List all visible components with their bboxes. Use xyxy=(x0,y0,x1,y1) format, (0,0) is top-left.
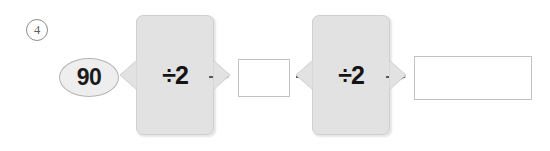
machine-1-operation-label: ÷2 xyxy=(136,15,214,135)
input-value-text: 90 xyxy=(77,66,102,89)
machine-2-outlet-wedge xyxy=(389,60,406,90)
machine-1-inlet-wedge xyxy=(120,60,137,90)
machine-1-outlet-wedge xyxy=(213,60,230,90)
function-machine-flow: 90 ÷2 xyxy=(0,0,550,151)
machine-2-inlet-wedge xyxy=(296,60,313,90)
answer-box-1[interactable] xyxy=(238,59,290,97)
input-value-oval: 90 xyxy=(59,58,119,97)
machine-2-operation-label: ÷2 xyxy=(312,15,390,135)
function-machine-1: ÷2 xyxy=(136,15,214,135)
function-machine-2: ÷2 xyxy=(312,15,390,135)
answer-box-2[interactable] xyxy=(414,56,532,100)
worksheet-page: 4 90 ÷2 xyxy=(0,0,550,151)
